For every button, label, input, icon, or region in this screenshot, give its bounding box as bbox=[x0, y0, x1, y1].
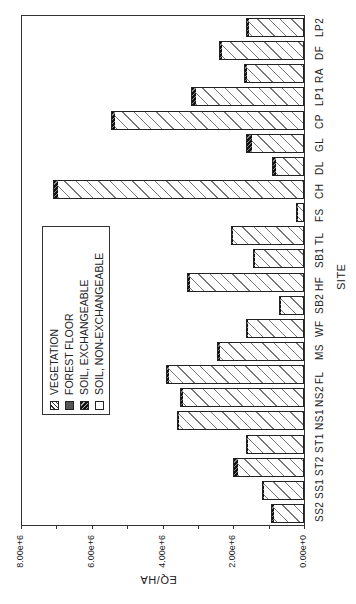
legend-label-soil-non-exchangeable: SOIL, NON-EXCHANGEABLE bbox=[93, 253, 105, 395]
legend-swatch-vegetation bbox=[50, 401, 59, 410]
bar-segment-soil-exchangeable bbox=[280, 297, 282, 314]
category-label: NS2 bbox=[314, 386, 325, 407]
bar-lp2 bbox=[246, 18, 304, 37]
category-label: CP bbox=[314, 114, 325, 129]
bar-segment-soil-exchangeable bbox=[247, 320, 249, 337]
category-label: RA bbox=[314, 68, 325, 83]
bar-ch bbox=[53, 180, 304, 199]
bar-tl bbox=[231, 226, 304, 245]
bar-segment-soil-exchangeable bbox=[247, 436, 249, 453]
category-label: SS2 bbox=[314, 502, 325, 522]
category-label: HF bbox=[314, 277, 325, 291]
bar-segment-soil-exchangeable bbox=[234, 459, 238, 476]
bar-segment-soil-exchangeable bbox=[181, 389, 183, 406]
y-tick-mark bbox=[21, 525, 22, 529]
y-tick-mark bbox=[56, 525, 57, 529]
x-axis-title: SITE bbox=[335, 264, 347, 290]
category-label: DF bbox=[314, 45, 325, 59]
bar-sb1 bbox=[253, 249, 304, 268]
bar-segment-soil-exchangeable bbox=[273, 158, 275, 175]
bar-ss2 bbox=[271, 504, 304, 523]
bar-sb2 bbox=[279, 296, 304, 315]
legend-swatch-soil-non-exchangeable bbox=[95, 401, 104, 410]
bar-segment-soil-exchangeable bbox=[192, 88, 196, 105]
legend-label-forest-floor: FOREST FLOOR bbox=[63, 314, 75, 395]
bar-segment-soil-exchangeable bbox=[247, 19, 249, 36]
bar-segment-soil-exchangeable bbox=[232, 227, 234, 244]
y-axis-title: EQ/HA bbox=[140, 574, 177, 586]
bar-segment-soil-exchangeable bbox=[220, 42, 222, 59]
bar-dl bbox=[272, 157, 304, 176]
legend-label-vegetation: VEGETATION bbox=[48, 329, 60, 395]
category-label: NS1 bbox=[314, 409, 325, 430]
category-label: LP1 bbox=[314, 87, 325, 106]
bar-cp bbox=[111, 111, 304, 130]
category-label: ST2 bbox=[314, 456, 325, 476]
y-tick-label: 8.00e+6 bbox=[15, 535, 25, 568]
bar-segment-soil-exchangeable bbox=[54, 181, 58, 198]
bar-segment-soil-exchangeable bbox=[245, 65, 247, 82]
y-tick-mark bbox=[233, 525, 234, 529]
y-tick-label: 2.00e+6 bbox=[227, 535, 237, 568]
bar-st2 bbox=[233, 458, 304, 477]
bar-segment-soil-exchangeable bbox=[247, 135, 252, 152]
bar-segment-soil-exchangeable bbox=[272, 505, 274, 522]
category-label: MS bbox=[314, 344, 325, 360]
bar-segment-soil-exchangeable bbox=[112, 112, 114, 129]
bar-df bbox=[219, 41, 304, 60]
bar-fs bbox=[296, 203, 304, 222]
category-label: WF bbox=[314, 321, 325, 338]
category-label: CH bbox=[314, 183, 325, 198]
category-label: ST1 bbox=[314, 433, 325, 453]
bar-st1 bbox=[246, 435, 304, 454]
category-label: DL bbox=[314, 162, 325, 176]
bar-segment-soil-exchangeable bbox=[167, 366, 169, 383]
bar-ns1 bbox=[177, 411, 304, 430]
bar-segment-soil-exchangeable bbox=[254, 250, 256, 267]
bar-segment-soil-exchangeable bbox=[297, 204, 299, 221]
bar-ra bbox=[244, 64, 304, 83]
bar-wf bbox=[246, 319, 304, 338]
category-label: LP2 bbox=[314, 17, 325, 36]
legend-swatch-soil-exchangeable bbox=[80, 401, 89, 410]
y-tick-mark bbox=[92, 525, 93, 529]
y-tick-label: 6.00e+6 bbox=[86, 535, 96, 568]
y-tick-mark bbox=[198, 525, 199, 529]
bar-segment-soil-exchangeable bbox=[188, 274, 190, 291]
y-tick-mark bbox=[163, 525, 164, 529]
category-label: SB2 bbox=[314, 294, 325, 314]
category-label: TL bbox=[314, 232, 325, 245]
bar-ns2 bbox=[180, 388, 304, 407]
y-tick-mark bbox=[269, 525, 270, 529]
bar-segment-soil-exchangeable bbox=[218, 343, 220, 360]
legend-swatch-forest-floor bbox=[65, 401, 74, 410]
bar-segment-soil-exchangeable bbox=[178, 412, 180, 429]
category-label: FL bbox=[314, 371, 325, 384]
y-tick-mark bbox=[304, 525, 305, 529]
category-label: GL bbox=[314, 138, 325, 152]
y-tick-label: 0.00e+0 bbox=[298, 535, 308, 568]
category-label: SS1 bbox=[314, 479, 325, 499]
bar-lp1 bbox=[191, 87, 304, 106]
legend: VEGETATION FOREST FLOOR SOIL, EXCHANGEAB… bbox=[42, 226, 110, 415]
legend-label-soil-exchangeable: SOIL, EXCHANGEABLE bbox=[78, 279, 90, 395]
category-label: SB1 bbox=[314, 248, 325, 268]
bar-ms bbox=[217, 342, 304, 361]
bar-gl bbox=[246, 134, 304, 153]
bar-fl bbox=[166, 365, 304, 384]
bar-ss1 bbox=[262, 481, 304, 500]
y-tick-mark bbox=[127, 525, 128, 529]
y-tick-label: 4.00e+6 bbox=[157, 535, 167, 568]
bar-hf bbox=[187, 273, 304, 292]
bar-segment-soil-exchangeable bbox=[263, 482, 265, 499]
category-label: FS bbox=[314, 208, 325, 222]
